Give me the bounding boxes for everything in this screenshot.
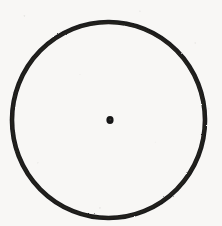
circle-figure-svg [0, 0, 222, 226]
center-point-group [106, 116, 113, 124]
center-point-highlight [109, 118, 111, 120]
figure-canvas [0, 0, 222, 226]
